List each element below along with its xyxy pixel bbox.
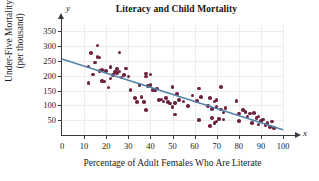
data-point [206, 104, 210, 108]
data-point [129, 88, 133, 92]
data-point [250, 121, 254, 125]
data-point [215, 105, 219, 109]
data-point [87, 65, 91, 69]
data-point [98, 56, 102, 60]
data-point [173, 113, 177, 117]
gridline-horizontal [62, 76, 283, 77]
data-point [89, 51, 93, 55]
gridline-vertical [106, 24, 107, 135]
data-point [222, 111, 226, 115]
data-point [199, 95, 203, 99]
data-point [186, 104, 190, 108]
data-point [87, 81, 91, 85]
data-point [107, 86, 111, 90]
data-point [93, 61, 97, 65]
data-point [210, 107, 214, 111]
chart-title: Literacy and Child Mortality [0, 4, 319, 14]
gridline-horizontal [62, 91, 283, 92]
x-tick-mark [128, 135, 129, 139]
gridline-horizontal [62, 31, 283, 32]
gridline-vertical [173, 24, 174, 135]
y-tick-label: 350 [4, 26, 56, 36]
y-tick-label: 100 [4, 100, 56, 110]
plot-area [62, 24, 283, 135]
data-point [171, 85, 175, 89]
data-point [197, 87, 201, 91]
data-point [175, 92, 179, 96]
data-point [217, 117, 221, 121]
x-tick-mark [195, 135, 196, 139]
data-point [195, 99, 199, 103]
x-tick-mark [283, 135, 284, 139]
x-tick-mark [150, 135, 151, 139]
data-point [100, 68, 104, 72]
data-point [219, 85, 223, 89]
gridline-vertical [84, 24, 85, 135]
data-point [208, 124, 212, 128]
x-tick-mark [84, 135, 85, 139]
data-point [122, 73, 126, 77]
x-axis-label: Percentage of Adult Females Who Are Lite… [40, 158, 305, 168]
data-point [140, 95, 144, 99]
gridline-vertical [283, 24, 284, 135]
data-point [109, 65, 113, 69]
data-point [237, 119, 241, 123]
data-point [102, 80, 106, 84]
y-axis-variable-label: y [66, 3, 70, 13]
y-tick-label: 50 [4, 115, 56, 125]
y-tick-label: 300 [4, 41, 56, 51]
x-tick-label: 100 [268, 141, 298, 151]
x-tick-mark [106, 135, 107, 139]
data-point [109, 77, 113, 81]
data-point [208, 96, 212, 100]
data-point [127, 75, 131, 79]
y-tick-label: 200 [4, 71, 56, 81]
data-point [162, 100, 166, 104]
data-point [135, 100, 139, 104]
y-axis-arrow-icon [58, 13, 64, 19]
x-tick-mark [239, 135, 240, 139]
x-axis-variable-label: x [303, 128, 307, 138]
data-point [224, 106, 228, 110]
x-tick-mark [217, 135, 218, 139]
y-tick-label: 150 [4, 86, 56, 96]
x-tick-mark [261, 135, 262, 139]
data-point [248, 112, 252, 116]
data-point [144, 75, 148, 79]
data-point [270, 120, 274, 124]
gridline-horizontal [62, 46, 283, 47]
data-point [237, 112, 241, 116]
data-point [182, 100, 186, 104]
data-point [215, 98, 219, 102]
y-tick-label: 250 [4, 56, 56, 66]
gridline-vertical [150, 24, 151, 135]
data-point [118, 70, 122, 74]
x-tick-mark [173, 135, 174, 139]
data-point [104, 69, 108, 73]
data-point [118, 51, 122, 55]
data-point [173, 101, 177, 105]
data-point [272, 126, 276, 130]
x-axis-arrow-icon [295, 132, 301, 138]
data-point [149, 83, 153, 87]
data-point [142, 100, 146, 104]
data-point [266, 121, 270, 125]
data-point [246, 115, 250, 119]
data-point [177, 98, 181, 102]
data-point [210, 116, 214, 120]
data-point [155, 87, 159, 91]
data-point [111, 73, 115, 77]
data-point [144, 108, 148, 112]
scatter-plot-figure: Literacy and Child Mortality Under-Five … [0, 0, 319, 181]
data-point [138, 83, 142, 87]
data-point [252, 111, 256, 115]
data-point [171, 105, 175, 109]
gridline-vertical [128, 24, 129, 135]
data-point [244, 110, 248, 114]
data-point [268, 125, 272, 129]
data-point [197, 118, 201, 122]
gridline-vertical [195, 24, 196, 135]
